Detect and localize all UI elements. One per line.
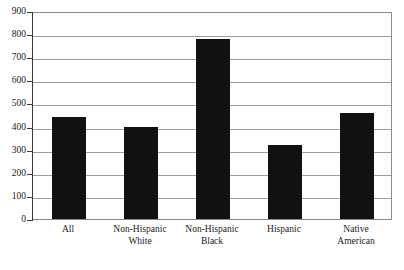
y-tick-mark (27, 58, 32, 59)
y-tick-mark (27, 197, 32, 198)
y-tick-mark (27, 81, 32, 82)
y-tick-label: 0 (21, 215, 26, 225)
y-tick-label: 200 (12, 169, 26, 179)
y-axis-tick-labels: 9008007006005004003002001000 (0, 0, 26, 270)
x-tick-label-line2: White (104, 236, 176, 248)
x-tick-label-line1: Hispanic (267, 224, 301, 234)
x-tick-label: NativeAmerican (320, 224, 392, 247)
bar[interactable] (340, 113, 374, 219)
x-tick-label: Hispanic (248, 224, 320, 236)
y-tick-label: 400 (12, 123, 26, 133)
y-tick-mark (27, 104, 32, 105)
x-tick-label-line1: All (62, 224, 74, 234)
y-tick-label: 800 (12, 30, 26, 40)
bar-chart-figure: 9008007006005004003002001000 AllNon-Hisp… (0, 0, 404, 270)
y-tick-mark (27, 128, 32, 129)
y-tick-label: 600 (12, 76, 26, 86)
x-tick-label: All (32, 224, 104, 236)
x-tick-label-line2: Black (176, 236, 248, 248)
bar[interactable] (268, 145, 302, 219)
y-tick-label: 100 (12, 192, 26, 202)
y-tick-label: 300 (12, 146, 26, 156)
x-axis-tick-labels: AllNon-HispanicWhiteNon-HispanicBlackHis… (32, 224, 392, 268)
y-tick-mark (27, 220, 32, 221)
bars-layer (33, 13, 391, 219)
x-tick-label: Non-HispanicBlack (176, 224, 248, 247)
bar[interactable] (124, 127, 158, 219)
x-tick-label-line1: Non-Hispanic (113, 224, 166, 234)
y-tick-mark (27, 151, 32, 152)
x-tick-label-line1: Native (343, 224, 368, 234)
bar[interactable] (196, 39, 230, 219)
bar[interactable] (52, 117, 86, 219)
y-tick-label: 700 (12, 53, 26, 63)
y-tick-label: 900 (12, 7, 26, 17)
y-tick-mark (27, 35, 32, 36)
x-tick-label-line2: American (320, 236, 392, 248)
x-tick-label-line1: Non-Hispanic (185, 224, 238, 234)
y-tick-mark (27, 12, 32, 13)
y-tick-label: 500 (12, 99, 26, 109)
y-tick-mark (27, 174, 32, 175)
plot-area (32, 12, 392, 220)
x-tick-label: Non-HispanicWhite (104, 224, 176, 247)
